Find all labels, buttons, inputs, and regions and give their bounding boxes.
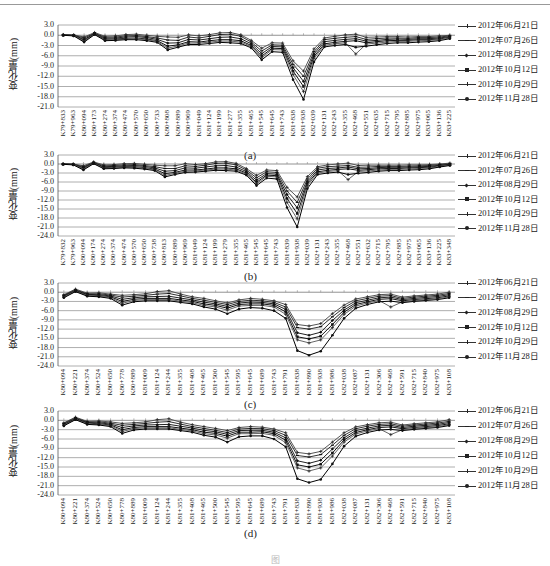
x-tick-label: K80+889 — [130, 498, 137, 525]
data-point-marker — [156, 418, 159, 421]
data-point-marker — [179, 421, 182, 424]
legend-line-icon — [458, 426, 476, 427]
legend-item: 2012年11月28日 — [458, 480, 539, 490]
x-tick-label: K81+408 — [189, 498, 196, 525]
x-tick-label: K80+374 — [84, 498, 91, 525]
data-point-marker — [413, 428, 416, 431]
x-tick-label: K80+650 — [107, 498, 114, 525]
data-point-marker — [98, 424, 101, 427]
legend-label: 2012年10月12日 — [478, 450, 539, 460]
legend-label: 2012年07月26日 — [478, 420, 539, 430]
data-point-marker — [319, 463, 322, 466]
x-tick-label: K81+645 — [247, 498, 254, 525]
x-tick-label: K81+838 — [294, 498, 301, 525]
x-tick-label: K81+689 — [259, 498, 266, 525]
legend-line-icon — [458, 411, 476, 412]
legend-label: 2012年11月28日 — [478, 480, 539, 490]
data-point-marker — [191, 431, 194, 434]
data-point-marker — [133, 429, 136, 432]
data-point-marker — [436, 426, 439, 429]
data-point-marker — [343, 445, 346, 448]
data-point-marker — [366, 431, 369, 434]
x-tick-label: K81+124 — [154, 498, 161, 525]
x-tick-label: K81+009 — [142, 498, 149, 525]
legend-item: 2012年06月21日 — [458, 405, 539, 415]
data-point-marker — [307, 469, 310, 472]
data-point-marker — [319, 478, 322, 481]
data-point-marker — [168, 428, 171, 431]
legend-line-icon — [458, 456, 476, 457]
x-tick-label: K81+938 — [317, 498, 324, 525]
data-point-marker — [284, 445, 287, 448]
plus-marker-icon — [467, 409, 468, 413]
circle-marker-icon — [465, 484, 469, 488]
square-marker-icon — [465, 454, 469, 458]
data-point-marker — [448, 424, 451, 427]
legend-label: 2012年08月29日 — [478, 435, 539, 445]
data-point-marker — [308, 481, 311, 484]
figure-caption: 图 — [0, 553, 550, 566]
data-point-marker — [249, 425, 252, 428]
x-tick-label: K82+840 — [422, 498, 429, 525]
data-point-marker — [307, 462, 310, 465]
data-point-marker — [121, 422, 124, 425]
legend-item: 2012年07月26日 — [458, 420, 539, 430]
data-point-marker — [63, 425, 66, 428]
x-tick-label: K82+038 — [341, 498, 348, 525]
legend-label: 2012年06月21日 — [478, 405, 539, 415]
x-tick-label: K80+094 — [60, 498, 67, 525]
data-point-marker — [307, 452, 310, 455]
subfigure-label: (d) — [244, 527, 257, 539]
data-point-marker — [74, 418, 77, 421]
x-tick-label: K81+986 — [329, 498, 336, 525]
data-point-marker — [109, 425, 112, 428]
data-point-marker — [167, 417, 170, 420]
legend-item: 2012年10月12日 — [458, 450, 539, 460]
x-tick-label: K80+524 — [95, 498, 102, 525]
data-point-marker — [202, 425, 205, 428]
x-tick-label: K80+778 — [119, 498, 126, 525]
data-point-marker — [331, 452, 334, 455]
legend-line-icon — [458, 441, 476, 442]
x-tick-label: K82+468 — [387, 498, 394, 525]
legend-item: 2012年08月29日 — [458, 435, 539, 445]
data-point-marker — [249, 435, 252, 438]
dash-marker-icon — [465, 426, 469, 427]
x-tick-label: K83+108 — [446, 498, 453, 525]
x-tick-label: K81+244 — [165, 498, 172, 525]
x-tick-label: K82+975 — [434, 498, 441, 525]
data-point-marker — [156, 428, 159, 431]
x-tick-label: K81+500 — [212, 498, 219, 525]
data-point-marker — [425, 427, 428, 430]
x-tick-label: K81+465 — [200, 498, 207, 525]
x-tick-label: K81+545 — [224, 498, 231, 525]
data-point-marker — [203, 434, 206, 437]
data-point-marker — [214, 436, 217, 439]
legend-item: 2012年10月29日 — [458, 465, 539, 475]
plus-marker-icon — [467, 469, 468, 473]
x-tick-label: K82+087 — [352, 498, 359, 525]
x-tick-label: K81+791 — [282, 498, 289, 525]
x-tick-label: K80+221 — [72, 498, 79, 525]
data-point-marker — [296, 478, 299, 481]
x-tick-label: K81+743 — [271, 498, 278, 525]
data-point-marker — [273, 438, 276, 441]
legend-line-icon — [458, 471, 476, 472]
data-point-marker — [238, 436, 241, 439]
data-point-marker — [86, 423, 89, 426]
x-tick-label: K82+715 — [411, 498, 418, 525]
data-point-marker — [389, 426, 392, 429]
data-point-marker — [378, 429, 381, 432]
diamond-marker-icon — [464, 439, 468, 443]
data-point-marker — [144, 428, 147, 431]
data-point-marker — [354, 435, 357, 438]
data-point-marker — [401, 429, 404, 432]
data-point-marker — [179, 429, 182, 432]
x-tick-label: K81+355 — [177, 498, 184, 525]
data-point-marker — [261, 435, 264, 438]
x-tick-label: K82+131 — [364, 498, 371, 525]
legend-label: 2012年10月29日 — [478, 465, 539, 475]
x-tick-label: K82+306 — [376, 498, 383, 525]
data-point-marker — [226, 441, 229, 444]
